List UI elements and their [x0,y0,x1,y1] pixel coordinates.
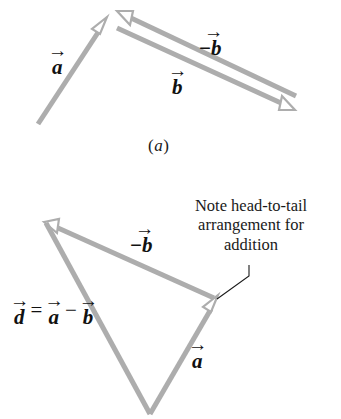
annotation-line-1: Note head-to-tail [165,196,337,215]
vector-subtraction-figure: → a → −b → b (a) → −b → a → d = → a − → … [0,0,341,419]
label-vector-b-panel-a: → b [168,66,187,98]
expr-atom-d: → d [10,296,29,328]
expr-minus: − [63,300,79,321]
label-vector-d-expression: → d = → a − → b [10,296,97,328]
vector-b-arrowhead [279,96,295,110]
expr-atom-b: → b [79,296,98,328]
label-vector-a-panel-a: → a [48,46,67,78]
annotation-line-2: arrangement for [165,215,337,234]
leader-path [217,265,249,299]
expr-atom-a: → a [44,296,63,328]
label-vector-minus-b-panel-b: → −b [128,224,154,256]
panel-a-vectors [38,11,296,124]
label-vector-minus-b-panel-a: → −b [197,27,223,59]
panel-a-caption: (a) [148,136,169,156]
label-minus-b-glyph-b: −b [128,235,154,256]
vector-minus-b-arrowhead [117,11,133,25]
caption-close-paren: ) [163,136,169,155]
label-vector-a-panel-b: → a [188,340,207,372]
expr-equals: = [29,300,45,321]
caption-letter: a [154,136,163,155]
vector-a-panel-b [150,295,218,414]
annotation-line-3: addition [165,235,337,254]
annotation-note: Note head-to-tail arrangement for additi… [165,196,337,254]
label-minus-b-glyph: −b [197,38,223,59]
vector-a-arrowhead [92,17,107,34]
annotation-leader-line [217,265,249,299]
